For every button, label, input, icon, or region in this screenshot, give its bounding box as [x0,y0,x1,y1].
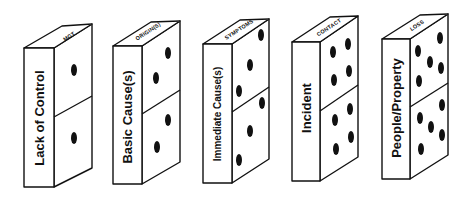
pip-icon [247,125,253,137]
pip-icon [345,38,351,50]
domino-diagram: Lack of Control MGT Basic Cause(s) ORIGI… [0,0,473,201]
pip-icon [165,47,171,59]
pip-icon [347,103,353,115]
pip-icon [71,132,77,144]
pip-icon [154,141,160,153]
pip-icon [258,29,264,41]
pip-icon [259,97,265,109]
domino-incident: Incident CONTACT [292,16,358,181]
domino-1-right-face [54,24,92,187]
pip-icon [416,75,422,87]
pip-icon [331,74,337,86]
pip-icon [346,65,352,77]
domino-4-front-label: Incident [299,82,314,133]
pip-icon [165,114,171,126]
pip-icon [333,143,339,155]
pip-icon [418,143,424,155]
domino-people-property: People/Property LOSS [382,14,448,179]
pip-icon [439,99,445,111]
domino-3-front-label: Immediate Cause(s) [212,67,223,161]
pip-icon [417,112,423,124]
pip-icon [153,72,159,84]
domino-lack-of-control: Lack of Control MGT [24,24,92,187]
pip-icon [428,121,434,133]
pip-icon [348,131,354,143]
pip-icon [332,114,338,126]
domino-5-front-label: People/Property [389,57,404,157]
pip-icon [236,154,242,166]
domino-2-front-label: Basic Cause(s) [120,70,135,163]
domino-1-front-label: Lack of Control [32,70,47,165]
pip-icon [439,129,445,141]
pip-icon [71,64,77,76]
pip-icon [247,59,253,71]
pip-icon [330,46,336,58]
pip-icon [438,62,444,74]
pip-icon [437,32,443,44]
domino-basic-causes: Basic Cause(s) ORIGIN(S) [113,21,180,184]
pip-icon [236,85,242,97]
pip-icon [427,56,433,68]
domino-immediate-causes: Immediate Cause(s) SYMPTOMS [203,18,269,183]
pip-icon [415,45,421,57]
